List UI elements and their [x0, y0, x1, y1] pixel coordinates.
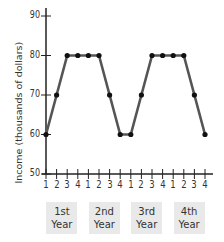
x-tick-label: 4	[116, 179, 125, 190]
income-line-chart: Income (thousands of dollars) 5060708090…	[0, 0, 224, 242]
x-tick-label: 2	[52, 179, 61, 190]
year-ordinal: 3rd	[131, 205, 162, 218]
x-tick-label: 3	[148, 179, 157, 190]
y-tick-label: 60	[26, 128, 40, 139]
data-point	[107, 92, 112, 97]
data-point	[118, 132, 123, 137]
year-ordinal: 2nd	[89, 205, 120, 218]
x-tick-label: 4	[201, 179, 210, 190]
x-tick-label: 4	[158, 179, 167, 190]
data-point	[181, 53, 186, 58]
year-label-box: 1stYear	[46, 202, 77, 234]
data-point	[149, 53, 154, 58]
data-point	[54, 92, 59, 97]
y-axis-label: Income (thousands of dollars)	[13, 44, 24, 184]
x-tick-label: 1	[127, 179, 136, 190]
data-point	[139, 92, 144, 97]
x-tick-label: 1	[42, 179, 51, 190]
year-word: Year	[174, 218, 205, 231]
x-tick-label: 3	[63, 179, 72, 190]
data-point	[43, 132, 48, 137]
y-tick-label: 50	[26, 167, 40, 178]
x-tick-label: 2	[95, 179, 104, 190]
x-tick-label: 2	[137, 179, 146, 190]
y-tick-label: 80	[26, 49, 40, 60]
year-label-box: 3rdYear	[131, 202, 162, 234]
data-point	[86, 53, 91, 58]
data-point	[65, 53, 70, 58]
x-tick-label: 1	[84, 179, 93, 190]
year-word: Year	[89, 218, 120, 231]
x-tick-label: 4	[74, 179, 83, 190]
x-tick-label: 1	[169, 179, 178, 190]
data-point	[96, 53, 101, 58]
data-point	[171, 53, 176, 58]
data-point	[192, 92, 197, 97]
year-ordinal: 4th	[174, 205, 205, 218]
year-word: Year	[46, 218, 77, 231]
data-point	[128, 132, 133, 137]
year-label-box: 4thYear	[174, 202, 205, 234]
year-ordinal: 1st	[46, 205, 77, 218]
income-series-line	[46, 56, 205, 135]
data-point	[75, 53, 80, 58]
x-tick-label: 3	[105, 179, 114, 190]
data-point	[202, 132, 207, 137]
y-tick-label: 70	[26, 88, 40, 99]
year-word: Year	[131, 218, 162, 231]
y-tick-label: 90	[26, 9, 40, 20]
data-point	[160, 53, 165, 58]
year-label-box: 2ndYear	[89, 202, 120, 234]
x-tick-label: 2	[180, 179, 189, 190]
x-tick-label: 3	[190, 179, 199, 190]
